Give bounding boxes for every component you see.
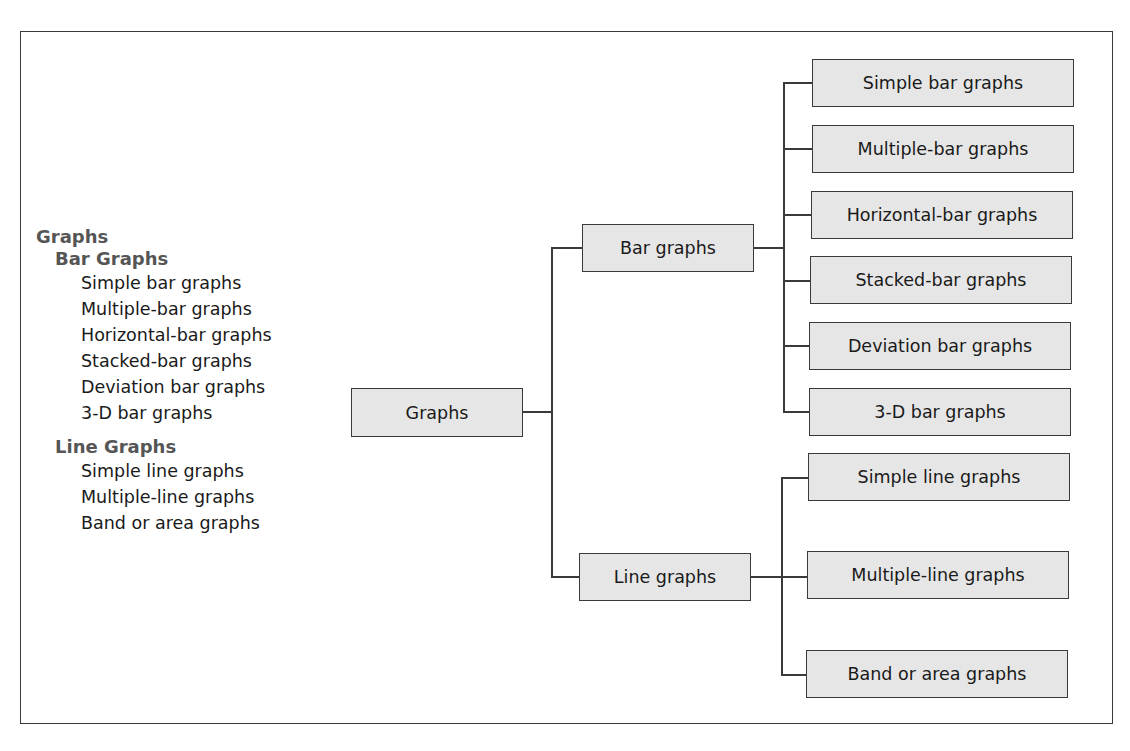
outline-item: Deviation bar graphs xyxy=(81,374,272,400)
outline-item: 3-D bar graphs xyxy=(81,400,272,426)
outline-item: Simple line graphs xyxy=(81,458,272,484)
outline-item: Multiple-bar graphs xyxy=(81,296,272,322)
node-line-graphs: Line graphs xyxy=(579,553,751,601)
outline-item: Stacked-bar graphs xyxy=(81,348,272,374)
node-leaf: 3-D bar graphs xyxy=(809,388,1071,436)
connector-line-trunk xyxy=(781,477,783,675)
node-leaf: Multiple-bar graphs xyxy=(812,125,1074,173)
connector-bar xyxy=(551,247,582,249)
node-leaf: Deviation bar graphs xyxy=(809,322,1071,370)
outline-heading-line: Line Graphs xyxy=(55,436,272,458)
outline-item: Multiple-line graphs xyxy=(81,484,272,510)
outline-item: Simple bar graphs xyxy=(81,270,272,296)
node-leaf: Horizontal-bar graphs xyxy=(811,191,1073,239)
node-leaf: Simple line graphs xyxy=(808,453,1070,501)
node-leaf: Band or area graphs xyxy=(806,650,1068,698)
connector-line-out xyxy=(751,576,808,578)
node-leaf: Stacked-bar graphs xyxy=(810,256,1072,304)
outline-item: Horizontal-bar graphs xyxy=(81,322,272,348)
node-leaf: Simple bar graphs xyxy=(812,59,1074,107)
connector-leaf xyxy=(783,214,812,216)
connector-leaf xyxy=(781,477,809,479)
connector-bar-trunk xyxy=(783,82,785,413)
node-bar-graphs: Bar graphs xyxy=(582,224,754,272)
connector-bar-out xyxy=(754,247,783,249)
outline-title: Graphs xyxy=(36,226,272,248)
connector-leaf xyxy=(783,148,812,150)
outline-list: Graphs Bar Graphs Simple bar graphs Mult… xyxy=(36,226,272,536)
node-leaf: Multiple-line graphs xyxy=(807,551,1069,599)
connector-line xyxy=(551,576,580,578)
connector-root xyxy=(522,411,552,413)
connector-leaf xyxy=(781,674,809,676)
connector-leaf xyxy=(783,345,812,347)
outline-item: Band or area graphs xyxy=(81,510,272,536)
connector-root-trunk xyxy=(551,247,553,577)
outline-heading-bar: Bar Graphs xyxy=(55,248,272,270)
connector-leaf xyxy=(783,280,812,282)
connector-leaf xyxy=(783,411,812,413)
node-graphs: Graphs xyxy=(351,388,523,437)
connector-leaf xyxy=(783,82,812,84)
